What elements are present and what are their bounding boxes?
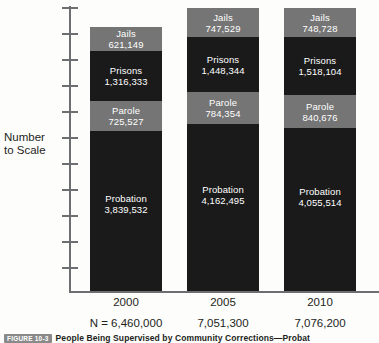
y-axis-tick bbox=[62, 215, 78, 217]
segment-parole-2005: Parole 784,354 bbox=[187, 92, 259, 124]
segment-label: Parole bbox=[112, 105, 140, 116]
segment-value: 1,448,344 bbox=[201, 65, 244, 76]
x-axis-label-2000: 2000 bbox=[90, 296, 162, 308]
x-axis-label-2010: 2010 bbox=[284, 296, 356, 308]
segment-jails-2005: Jails 747,529 bbox=[187, 8, 259, 37]
segment-jails-2000: Jails 621,149 bbox=[90, 27, 162, 51]
segment-probation-2010: Probation 4,055,514 bbox=[284, 128, 356, 291]
y-axis-tick bbox=[62, 33, 78, 35]
y-axis-tick bbox=[62, 7, 78, 9]
total-label-2000: N = 6,460,000 bbox=[71, 317, 181, 329]
figure-caption: FIGURE 10-3 People Being Supervised by C… bbox=[4, 334, 379, 343]
segment-value: 725,527 bbox=[108, 116, 143, 127]
segment-label: Jails bbox=[310, 12, 330, 23]
bar-2000: Jails 621,149 Prisons 1,316,333 Parole 7… bbox=[90, 27, 162, 291]
segment-value: 1,518,104 bbox=[298, 66, 341, 77]
segment-value: 784,354 bbox=[205, 108, 240, 119]
segment-label: Prisons bbox=[304, 55, 336, 66]
segment-jails-2010: Jails 748,728 bbox=[284, 8, 356, 37]
segment-value: 747,529 bbox=[205, 23, 240, 34]
segment-label: Probation bbox=[202, 184, 244, 195]
segment-label: Probation bbox=[105, 193, 147, 204]
segment-parole-2010: Parole 840,676 bbox=[284, 95, 356, 128]
y-axis-tick bbox=[62, 241, 78, 243]
bar-2010: Jails 748,728 Prisons 1,518,104 Parole 8… bbox=[284, 8, 356, 291]
y-axis-tick bbox=[62, 163, 78, 165]
segment-prisons-2010: Prisons 1,518,104 bbox=[284, 37, 356, 95]
y-axis-tick bbox=[62, 59, 78, 61]
segment-value: 748,728 bbox=[302, 23, 337, 34]
figure-number-badge: FIGURE 10-3 bbox=[4, 334, 52, 343]
segment-label: Jails bbox=[213, 12, 233, 23]
segment-probation-2005: Probation 4,162,495 bbox=[187, 124, 259, 291]
segment-prisons-2000: Prisons 1,316,333 bbox=[90, 51, 162, 101]
y-axis-line bbox=[69, 6, 71, 293]
segment-label: Prisons bbox=[207, 54, 239, 65]
y-axis-label-line2: to Scale bbox=[4, 144, 66, 157]
segment-value: 4,162,495 bbox=[201, 195, 244, 206]
segment-value: 621,149 bbox=[108, 39, 143, 50]
bar-2005: Jails 747,529 Prisons 1,448,344 Parole 7… bbox=[187, 8, 259, 291]
segment-prisons-2005: Prisons 1,448,344 bbox=[187, 37, 259, 92]
segment-label: Prisons bbox=[110, 65, 142, 76]
y-axis-label-line1: Number bbox=[4, 131, 66, 144]
figure-caption-text: People Being Supervised by Community Cor… bbox=[56, 334, 310, 343]
y-axis-label: Number to Scale bbox=[4, 131, 66, 157]
segment-label: Probation bbox=[299, 186, 341, 197]
y-axis-tick bbox=[62, 85, 78, 87]
segment-label: Parole bbox=[306, 101, 334, 112]
segment-label: Jails bbox=[116, 28, 136, 39]
segment-label: Parole bbox=[209, 97, 237, 108]
y-axis-tick bbox=[62, 267, 78, 269]
segment-parole-2000: Parole 725,527 bbox=[90, 101, 162, 131]
total-label-2005: 7,051,300 bbox=[168, 317, 278, 329]
total-label-2010: 7,076,200 bbox=[265, 317, 375, 329]
segment-probation-2000: Probation 3,839,532 bbox=[90, 131, 162, 291]
y-axis-tick bbox=[62, 111, 78, 113]
x-axis-label-2005: 2005 bbox=[187, 296, 259, 308]
segment-value: 1,316,333 bbox=[104, 76, 147, 87]
segment-value: 3,839,532 bbox=[104, 204, 147, 215]
x-axis-line bbox=[69, 291, 379, 293]
stacked-bar-chart: Number to Scale Jails 621,149 Prisons 1,… bbox=[0, 0, 379, 343]
segment-value: 4,055,514 bbox=[298, 197, 341, 208]
segment-value: 840,676 bbox=[302, 112, 337, 123]
y-axis-tick bbox=[62, 189, 78, 191]
